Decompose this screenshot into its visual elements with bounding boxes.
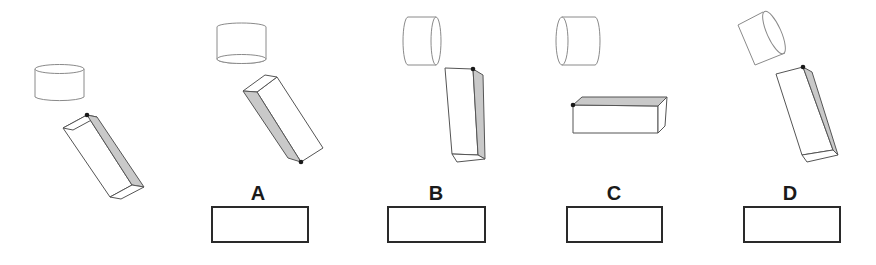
marker-dot — [85, 113, 90, 118]
option-c-cylinder — [556, 17, 600, 65]
option-b-answer-box[interactable] — [388, 207, 485, 242]
option-d-label: D — [783, 182, 797, 204]
option-b-block — [445, 67, 485, 162]
option-d-block — [776, 65, 838, 162]
marker-dot — [571, 103, 576, 108]
option-a-block — [243, 75, 323, 164]
option-b-label: B — [429, 182, 443, 204]
option-a-group: A — [212, 23, 323, 242]
marker-dot — [471, 67, 476, 72]
option-c-answer-box[interactable] — [567, 207, 662, 242]
option-a-label: A — [251, 182, 265, 204]
option-d-group: D — [738, 9, 840, 242]
mental-rotation-figure: A B — [0, 0, 876, 265]
reference-cylinder — [35, 65, 84, 101]
marker-dot — [801, 65, 806, 70]
marker-dot — [299, 160, 304, 165]
option-a-cylinder — [217, 23, 266, 64]
option-d-cylinder — [738, 9, 790, 65]
option-b-cylinder — [403, 17, 441, 65]
reference-group — [35, 65, 144, 200]
option-a-answer-box[interactable] — [212, 207, 308, 242]
option-c-block — [571, 97, 667, 133]
option-c-label: C — [607, 182, 621, 204]
reference-block — [63, 113, 144, 199]
option-d-answer-box[interactable] — [744, 207, 840, 242]
option-c-group: C — [556, 17, 667, 242]
option-b-group: B — [388, 17, 485, 242]
